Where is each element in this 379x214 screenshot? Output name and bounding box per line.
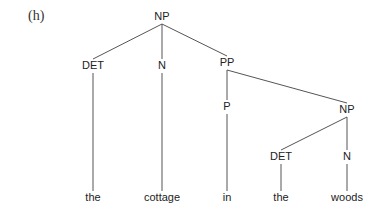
syntax-tree-diagram: (h) NPDETNPPPNPDETNthecottageinthewoods [0,0,379,214]
leaf-word-w-woods: woods [330,191,363,203]
tree-node-n1: N [158,59,166,71]
leaf-word-w-cottage: cottage [144,191,180,203]
tree-node-det1: DET [82,59,104,71]
leaf-word-w-the2: the [273,191,288,203]
example-label: (h) [28,8,45,24]
tree-edges [93,24,347,191]
tree-node-n2: N [343,150,351,162]
tree-node-p: P [223,100,230,112]
tree-edge-np_root-det1 [93,24,162,59]
tree-node-np-sub: NP [339,103,354,115]
tree-edge-np_root-pp [162,24,227,56]
tree-edge-pp-np_sub [227,70,347,103]
tree-node-np-root: NP [154,10,169,22]
tree-node-det2: DET [270,150,292,162]
tree-edge-np_sub-det2 [281,117,347,150]
tree-node-pp: PP [220,56,235,68]
tree-nodes: NPDETNPPPNPDETNthecottageinthewoods [82,10,363,203]
leaf-word-w-in: in [223,191,232,203]
leaf-word-w-the1: the [85,191,100,203]
